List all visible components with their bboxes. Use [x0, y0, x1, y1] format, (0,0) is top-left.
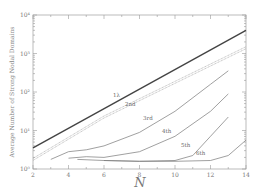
curve-label-6: 6th — [196, 150, 206, 156]
y-tick-label: 10⁴ — [20, 11, 31, 18]
y-tick-labels: 10⁰ 10¹ 10² 10³ 10⁴ — [20, 11, 31, 172]
y-tick-label: 10³ — [20, 50, 31, 57]
x-tick-label: 6 — [102, 171, 106, 178]
curve-2 — [33, 49, 246, 161]
x-tick-label: 12 — [207, 171, 215, 178]
curve-5 — [77, 117, 228, 161]
x-axis-title: N — [133, 175, 146, 189]
curve-label-4: 4th — [162, 128, 172, 134]
x-tick-label: 10 — [171, 171, 179, 178]
line-chart: 2 4 6 8 10 12 14 10⁰ 10¹ 10² 10³ 10⁴ N A… — [0, 0, 262, 189]
y-tick-label: 10² — [20, 88, 31, 95]
axis-ticks — [33, 15, 246, 169]
x-tick-label: 14 — [242, 171, 250, 178]
curve-label-5: 5th — [181, 142, 191, 148]
curve-label-3: 3rd — [143, 115, 153, 121]
y-tick-label: 10¹ — [20, 127, 30, 134]
curve-labels: 1λ 2nd 3rd 4th 5th 6th — [113, 92, 206, 156]
curve-label-2: 2nd — [125, 101, 136, 107]
curve-label-1: 1λ — [113, 92, 120, 98]
x-tick-label: 2 — [31, 171, 35, 178]
data-curves — [33, 30, 246, 161]
curve-1 — [33, 30, 246, 147]
plot-frame — [33, 15, 246, 169]
y-tick-label: 10⁰ — [20, 165, 31, 172]
curve-6 — [104, 140, 246, 161]
y-axis-title: Average Number of Strong Nodal Domains — [8, 27, 16, 159]
x-tick-label: 4 — [67, 171, 71, 178]
